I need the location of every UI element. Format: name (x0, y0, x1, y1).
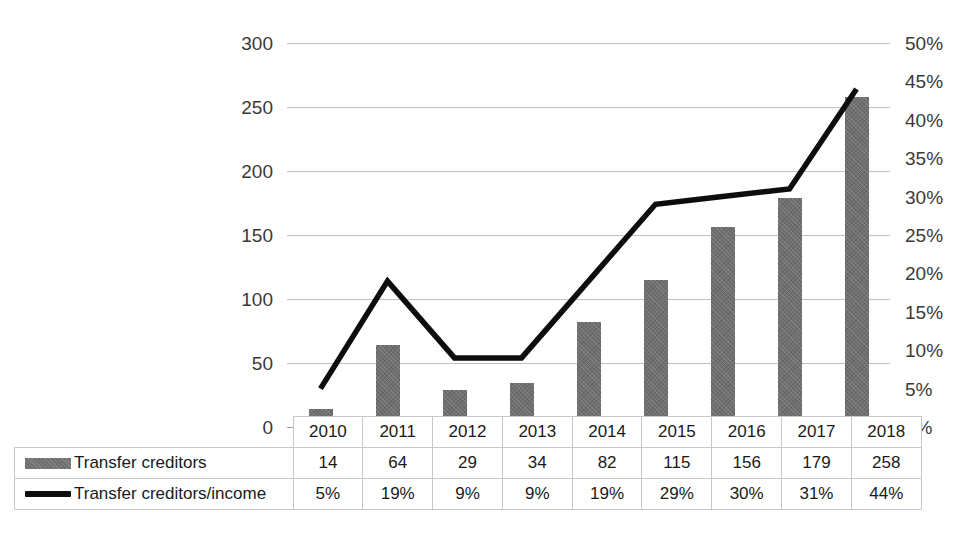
legend-cell-transfer-creditors-income: Transfer creditors/income (15, 479, 294, 510)
year-header-2011: 2011 (363, 417, 433, 448)
line-series-transfer-creditors-income (287, 43, 890, 427)
cell-2010-creditors: 14 (293, 448, 363, 479)
cell-2013-creditors: 34 (502, 448, 572, 479)
cell-2017-creditors: 179 (782, 448, 852, 479)
year-header-2010: 2010 (293, 417, 363, 448)
legend-spacer-cell (15, 417, 294, 448)
cell-2014-creditors: 82 (572, 448, 642, 479)
left-axis-tick-150: 150 (213, 226, 273, 245)
right-axis-tick-10pct: 10% (905, 341, 957, 360)
year-header-2014: 2014 (572, 417, 642, 448)
cell-2011-creditors: 64 (363, 448, 433, 479)
data-table: 201020112012201320142015201620172018Tran… (14, 416, 922, 510)
left-axis-tick-100: 100 (213, 290, 273, 309)
bar-swatch-icon (25, 458, 71, 469)
table-row: Transfer creditors1464293482115156179258 (15, 448, 922, 479)
right-axis-tick-40pct: 40% (905, 111, 957, 130)
right-axis-tick-15pct: 15% (905, 303, 957, 322)
table-row: Transfer creditors/income5%19%9%9%19%29%… (15, 479, 922, 510)
right-axis-tick-25pct: 25% (905, 226, 957, 245)
cell-2016-ratio: 30% (712, 479, 782, 510)
left-axis-tick-50: 50 (213, 354, 273, 373)
line-path (321, 89, 857, 389)
cell-2012-ratio: 9% (433, 479, 503, 510)
legend-label: Transfer creditors (74, 453, 207, 473)
year-header-2017: 2017 (782, 417, 852, 448)
year-header-2013: 2013 (502, 417, 572, 448)
table-row-years: 201020112012201320142015201620172018 (15, 417, 922, 448)
right-axis-tick-45pct: 45% (905, 72, 957, 91)
right-axis-tick-30pct: 30% (905, 188, 957, 207)
cell-2018-creditors: 258 (851, 448, 921, 479)
right-axis-tick-35pct: 35% (905, 149, 957, 168)
left-axis-tick-200: 200 (213, 162, 273, 181)
left-axis-tick-300: 300 (213, 34, 273, 53)
year-header-2012: 2012 (433, 417, 503, 448)
year-header-2016: 2016 (712, 417, 782, 448)
legend-label: Transfer creditors/income (74, 484, 266, 504)
cell-2015-creditors: 115 (642, 448, 712, 479)
line-swatch-icon (25, 491, 71, 497)
cell-2017-ratio: 31% (782, 479, 852, 510)
cell-2014-ratio: 19% (572, 479, 642, 510)
left-axis-tick-250: 250 (213, 98, 273, 117)
cell-2011-ratio: 19% (363, 479, 433, 510)
cell-2012-creditors: 29 (433, 448, 503, 479)
chart-container: 300250200150100500 50%45%40%35%30%25%20%… (0, 0, 957, 545)
right-axis-tick-50pct: 50% (905, 34, 957, 53)
cell-2018-ratio: 44% (851, 479, 921, 510)
right-axis-tick-5pct: 5% (905, 380, 957, 399)
cell-2016-creditors: 156 (712, 448, 782, 479)
cell-2010-ratio: 5% (293, 479, 363, 510)
year-header-2018: 2018 (851, 417, 921, 448)
cell-2015-ratio: 29% (642, 479, 712, 510)
plot-area (287, 43, 890, 427)
cell-2013-ratio: 9% (502, 479, 572, 510)
legend-cell-transfer-creditors: Transfer creditors (15, 448, 294, 479)
right-axis-tick-20pct: 20% (905, 264, 957, 283)
year-header-2015: 2015 (642, 417, 712, 448)
